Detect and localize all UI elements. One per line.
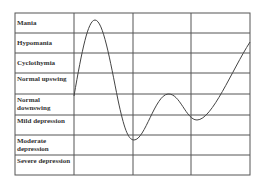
row-label-hypomania: Hypomania bbox=[17, 39, 73, 47]
row-label-cyclothymia: Cyclothymia bbox=[17, 59, 73, 67]
row-label-mild-depression: Mild depression bbox=[17, 117, 73, 125]
row-label-mania: Mania bbox=[17, 19, 73, 27]
mood-curve bbox=[74, 20, 250, 140]
row-label-moderate-depression: Moderate depression bbox=[17, 137, 73, 153]
mood-spectrum-diagram: Mania Hypomania Cyclothymia Normal upswi… bbox=[0, 0, 260, 185]
row-label-severe-depression: Severe depression bbox=[17, 157, 73, 165]
row-label-normal-downswing: Normal downswing bbox=[17, 96, 73, 112]
row-label-normal-upswing: Normal upswing bbox=[17, 75, 73, 83]
